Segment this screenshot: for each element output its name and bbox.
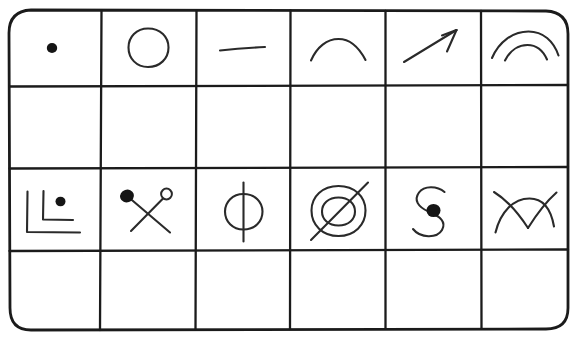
symbol-grid-image [0,0,577,340]
cell-r1c3-horizontal-dash [220,47,265,51]
cell-r1c2-circle [129,29,169,68]
cell-r1c5-arrow [404,30,457,62]
grid-outline [9,10,568,330]
grid-horizontal-lines [10,85,569,251]
cell-r3c2-crossed-pins [118,188,172,233]
cell-r3c3-phi [225,183,263,242]
cell-r1c1-dot [47,43,57,53]
grid-vertical-lines [100,11,482,331]
cell-r3c4-concentric-circles-with-slash [311,183,368,241]
cell-r1c6-double-arc [492,32,559,61]
cell-r3c1-nested-corners-with-dot [27,191,80,233]
cell-r3c5-s-curve-with-dot [413,187,445,236]
cell-r1c4-arc [311,39,366,61]
cell-r3c6-crossing-arcs [494,192,557,233]
drawing-canvas [0,0,577,340]
